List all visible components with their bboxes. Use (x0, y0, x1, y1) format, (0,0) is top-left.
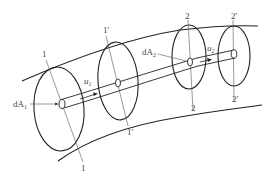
section-1-bottom-label: 1 (81, 163, 86, 173)
u1-label: u1 (84, 76, 92, 87)
section-2-bottom-label: 2 (191, 103, 196, 113)
channel-lower-boundary (58, 105, 262, 161)
section-2-prime (218, 20, 250, 100)
section-1-prime-bottom-label: 1' (127, 127, 134, 137)
section-1-top-label: 1 (42, 49, 47, 59)
u2-label: u2 (207, 43, 215, 54)
section-2-prime-top-label: 2' (231, 11, 238, 21)
dA1-label: dA1 (13, 99, 27, 110)
stream-tube-diagram: 1 1 1' 1' 2 2 2' 2' dA1 dA2 u1 u2 (0, 0, 274, 173)
section-1-prime-top-label: 1' (103, 25, 110, 35)
section-2-top-label: 2 (185, 11, 190, 21)
section-2-prime-bottom-label: 2' (232, 94, 239, 104)
dA2-label: dA2 (142, 47, 156, 58)
section-1 (31, 60, 87, 162)
